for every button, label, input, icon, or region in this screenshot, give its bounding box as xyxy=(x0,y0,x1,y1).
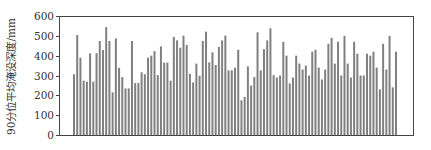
bar xyxy=(318,68,320,135)
bar xyxy=(195,64,197,135)
bar xyxy=(166,63,168,135)
bar xyxy=(163,63,165,135)
bar xyxy=(179,48,181,135)
bar xyxy=(73,74,75,135)
bar xyxy=(353,42,355,135)
bar xyxy=(289,83,291,135)
bar xyxy=(327,44,329,135)
bar xyxy=(266,40,268,135)
bar xyxy=(369,56,371,135)
bar xyxy=(392,87,394,135)
plot-area: 0100200300400500600 xyxy=(0,0,431,150)
bar xyxy=(154,51,156,135)
bar xyxy=(356,54,358,135)
bar xyxy=(363,76,365,136)
y-tick-label: 600 xyxy=(34,10,54,22)
bar xyxy=(379,89,381,135)
bar xyxy=(350,77,352,135)
bar xyxy=(208,62,210,135)
bar xyxy=(305,66,307,135)
bar xyxy=(240,100,242,135)
y-tick-label: 200 xyxy=(34,89,54,101)
bar xyxy=(321,79,323,135)
y-tick-label: 0 xyxy=(47,129,54,141)
bar xyxy=(144,74,146,135)
bar xyxy=(121,77,123,135)
bar xyxy=(157,75,159,135)
bar xyxy=(131,41,133,135)
bar xyxy=(215,65,217,135)
bar xyxy=(96,53,98,135)
bar xyxy=(141,72,143,135)
bar xyxy=(389,36,391,135)
y-tick-label: 400 xyxy=(34,50,54,62)
bar xyxy=(83,81,85,135)
bar xyxy=(221,40,223,135)
bar xyxy=(324,70,326,135)
bar xyxy=(108,41,110,135)
bar xyxy=(224,36,226,135)
bar xyxy=(253,77,255,135)
bar xyxy=(234,68,236,135)
bar xyxy=(192,82,194,135)
bar xyxy=(205,32,207,135)
bar xyxy=(250,86,252,135)
bar xyxy=(382,44,384,135)
bar xyxy=(128,88,130,135)
bar xyxy=(269,28,271,135)
bar xyxy=(366,54,368,135)
bar xyxy=(334,64,336,135)
bar xyxy=(76,35,78,135)
bar xyxy=(189,74,191,135)
bar xyxy=(218,47,220,135)
bar xyxy=(315,50,317,135)
bar xyxy=(89,53,91,135)
bar xyxy=(302,70,304,135)
bar xyxy=(385,70,387,135)
bar xyxy=(257,32,259,135)
bar xyxy=(102,50,104,135)
bar xyxy=(298,64,300,135)
bar xyxy=(337,42,339,135)
bar xyxy=(292,77,294,135)
bar xyxy=(376,68,378,135)
bar xyxy=(134,83,136,135)
bar xyxy=(263,49,265,135)
bar xyxy=(276,77,278,135)
bar xyxy=(211,52,213,135)
y-tick-label: 500 xyxy=(34,30,54,42)
bar xyxy=(202,41,204,135)
bar xyxy=(247,66,249,135)
bar xyxy=(372,52,374,135)
bar xyxy=(279,76,281,136)
bar xyxy=(105,27,107,135)
bar xyxy=(92,82,94,135)
bar xyxy=(137,83,139,135)
bar xyxy=(273,75,275,135)
bar xyxy=(286,56,288,135)
bar xyxy=(199,76,201,135)
bar xyxy=(170,81,172,135)
bar xyxy=(79,58,81,135)
bar xyxy=(150,56,152,135)
bar xyxy=(86,82,88,135)
bar xyxy=(237,50,239,135)
bar xyxy=(295,56,297,135)
bar xyxy=(118,68,120,135)
bar xyxy=(340,76,342,136)
y-tick-label: 300 xyxy=(34,70,54,82)
bar xyxy=(186,45,188,135)
bar xyxy=(331,38,333,135)
bar xyxy=(228,70,230,135)
bar xyxy=(173,37,175,135)
bar xyxy=(360,76,362,136)
bar xyxy=(147,58,149,135)
bar xyxy=(99,41,101,135)
bar xyxy=(160,46,162,135)
bar xyxy=(231,70,233,135)
bar xyxy=(311,52,313,135)
bar xyxy=(343,36,345,135)
bar xyxy=(244,97,246,135)
bar xyxy=(182,36,184,135)
bar xyxy=(395,52,397,135)
